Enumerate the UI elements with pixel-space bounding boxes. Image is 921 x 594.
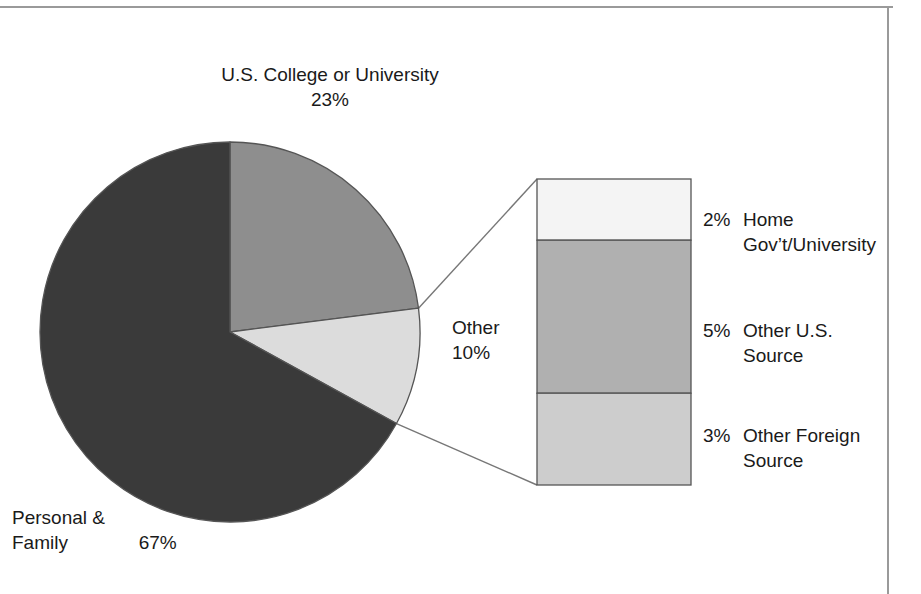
pie-label-college-value: 23% xyxy=(311,89,349,110)
pie-slice-u-s-college-or-university xyxy=(230,142,419,332)
pie-label-other-value: 10% xyxy=(452,342,490,363)
pie-label-other: Other10% xyxy=(452,315,592,365)
bar-label-other-foreign-line2: Source xyxy=(743,450,803,471)
bar-label-home-gov-value: 2% xyxy=(703,207,743,232)
pie-label-college-name: U.S. College or University xyxy=(221,64,439,85)
pie-label-personal-line2: Family xyxy=(12,532,68,553)
bar-label-home-gov-line2: Gov’t/University xyxy=(743,234,876,255)
bar-label-other-foreign-line1: Other Foreign xyxy=(743,425,860,446)
bar-label-other-us-line2: Source xyxy=(743,345,803,366)
pie-chart xyxy=(40,142,420,522)
bar-label-home-gov-line1: Home xyxy=(743,209,794,230)
bar-label-home-gov: 2%HomeGov’t/University xyxy=(703,207,913,257)
bar-label-other-us: 5%Other U.S.Source xyxy=(703,318,913,368)
bar-label-other-foreign: 3%Other ForeignSource xyxy=(703,423,913,473)
bar-segment-home-gov-t-university xyxy=(537,179,691,240)
bar-segment-other-foreign-source xyxy=(537,393,691,485)
leader-line-top xyxy=(419,179,538,308)
pie-label-other-name: Other xyxy=(452,317,500,338)
pie-label-college: U.S. College or University23% xyxy=(150,62,510,112)
bar-label-other-us-line1: Other U.S. xyxy=(743,320,833,341)
bar-label-other-us-value: 5% xyxy=(703,318,743,343)
pie-label-personal: Personal &Family 67% xyxy=(12,505,312,555)
pie-label-personal-value: 67% xyxy=(139,532,177,553)
leader-line-bottom xyxy=(397,424,538,485)
pie-label-personal-line1: Personal & xyxy=(12,507,105,528)
figure-container: U.S. College or University23% Other10% P… xyxy=(0,0,921,594)
bar-label-other-foreign-value: 3% xyxy=(703,423,743,448)
